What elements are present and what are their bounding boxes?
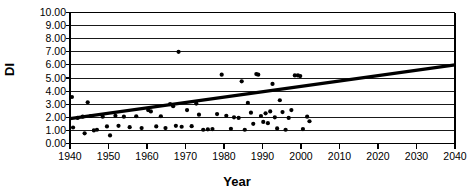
- data-point: [268, 109, 272, 113]
- data-point: [251, 122, 255, 126]
- data-point: [105, 124, 109, 128]
- data-point: [301, 127, 305, 131]
- data-point: [206, 127, 210, 131]
- data-point: [185, 108, 189, 112]
- data-point: [278, 98, 282, 102]
- data-point: [140, 126, 144, 130]
- data-point: [190, 124, 194, 128]
- data-point: [128, 125, 132, 129]
- data-point: [229, 127, 233, 131]
- data-point: [180, 125, 184, 129]
- data-point: [246, 101, 250, 105]
- data-point: [220, 73, 224, 77]
- data-point: [224, 114, 228, 118]
- chart-root: DI Year 0.001.002.003.004.005.006.007.00…: [0, 0, 474, 196]
- scatter-plot-area: [0, 0, 474, 196]
- data-point: [240, 79, 244, 83]
- data-point: [113, 114, 117, 118]
- data-point: [83, 131, 87, 135]
- data-point: [249, 111, 253, 115]
- data-point: [215, 112, 219, 116]
- data-point: [305, 115, 309, 119]
- data-point: [86, 100, 90, 104]
- data-point: [263, 111, 267, 115]
- data-point: [134, 114, 138, 118]
- data-point: [237, 116, 241, 120]
- data-point: [70, 95, 74, 99]
- data-point: [116, 124, 120, 128]
- data-point: [280, 110, 284, 114]
- data-point: [122, 115, 126, 119]
- trend-line: [70, 65, 455, 119]
- data-point: [256, 73, 260, 77]
- data-point: [210, 127, 214, 131]
- data-point: [270, 82, 274, 86]
- data-point: [273, 115, 277, 119]
- data-point: [259, 114, 263, 118]
- x-tick-marks: [70, 144, 455, 149]
- data-point: [232, 115, 236, 119]
- gridlines: [70, 13, 455, 144]
- data-point: [159, 114, 163, 118]
- data-point: [298, 74, 302, 78]
- data-point: [71, 125, 75, 129]
- data-point: [307, 119, 311, 123]
- data-point: [95, 128, 99, 132]
- data-point: [176, 50, 180, 54]
- data-points: [70, 50, 312, 138]
- data-point: [154, 124, 158, 128]
- data-point: [197, 113, 201, 117]
- data-point: [201, 128, 205, 132]
- data-point: [108, 133, 112, 137]
- data-point: [174, 124, 178, 128]
- data-point: [275, 126, 279, 130]
- data-point: [289, 108, 293, 112]
- data-point: [163, 126, 167, 130]
- data-point: [266, 121, 270, 125]
- data-point: [243, 128, 247, 132]
- data-point: [149, 109, 153, 113]
- data-point: [287, 116, 291, 120]
- data-point: [261, 120, 265, 124]
- data-point: [284, 128, 288, 132]
